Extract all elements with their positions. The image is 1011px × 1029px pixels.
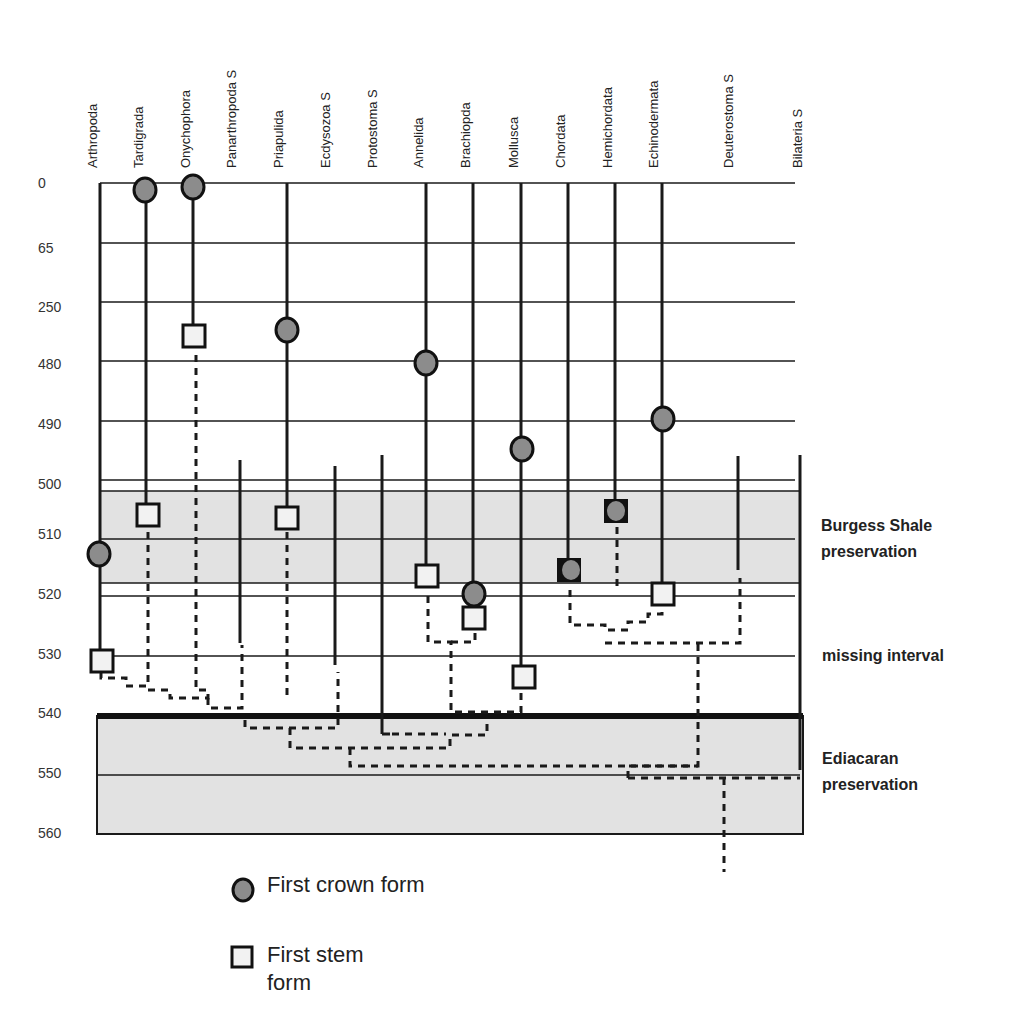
legend-crown-icon xyxy=(233,879,253,901)
ediacaran-label-2: preservation xyxy=(822,776,918,793)
stem-square-echinodermata[interactable] xyxy=(652,583,674,605)
crown-circle-echinodermata[interactable] xyxy=(652,407,674,431)
phylogeny-diagram: Arthropoda Tardigrada Onychophora Panart… xyxy=(0,0,1011,1029)
tick-label: 250 xyxy=(38,299,62,315)
legend: First crown form First stem form xyxy=(232,872,425,995)
crown-circle-mollusca[interactable] xyxy=(511,437,533,461)
taxon-label: Hemichordata xyxy=(600,86,615,168)
crown-circle-annelida[interactable] xyxy=(415,351,437,375)
tick-label: 65 xyxy=(38,240,54,256)
crown-circle-arthropoda[interactable] xyxy=(88,542,110,566)
tick-label: 500 xyxy=(38,476,62,492)
crown-circle-chordata[interactable] xyxy=(562,560,580,580)
legend-stem-label-2: form xyxy=(267,970,311,995)
stem-square-onychophora[interactable] xyxy=(183,325,205,347)
taxon-label: Chordata xyxy=(553,114,568,168)
burgess-shale-band xyxy=(100,491,800,583)
crown-circle-hemichordata[interactable] xyxy=(607,501,625,521)
taxon-label: Annelida xyxy=(411,117,426,168)
taxon-label: Echinodermata xyxy=(646,80,661,168)
taxon-label: Tardigrada xyxy=(131,106,146,168)
crown-circle-brachiopda[interactable] xyxy=(463,582,485,606)
tick-label: 0 xyxy=(38,175,46,191)
taxon-label: Protostoma S xyxy=(365,89,380,168)
taxon-label: Mollusca xyxy=(506,116,521,168)
missing-interval-label: missing interval xyxy=(822,647,944,664)
crown-circle-onychophora[interactable] xyxy=(182,175,204,199)
taxon-label: Arthropoda xyxy=(85,103,100,168)
stem-square-brachiopda[interactable] xyxy=(463,607,485,629)
crown-circle-tardigrada[interactable] xyxy=(134,178,156,202)
burgess-shale-label: Burgess Shale xyxy=(821,517,932,534)
band-annotations: Burgess Shale preservation missing inter… xyxy=(821,517,944,793)
tick-label: 560 xyxy=(38,825,62,841)
tick-label: 510 xyxy=(38,526,62,542)
stem-square-arthropoda[interactable] xyxy=(91,650,113,672)
crown-circle-priapulida[interactable] xyxy=(276,318,298,342)
time-gridlines xyxy=(97,183,800,775)
taxon-labels: Arthropoda Tardigrada Onychophora Panart… xyxy=(85,69,805,168)
ediacaran-label: Ediacaran xyxy=(822,750,898,767)
tick-label: 520 xyxy=(38,586,62,602)
taxon-label: Bilateria S xyxy=(790,108,805,168)
burgess-shale-label-2: preservation xyxy=(821,543,917,560)
legend-crown-label: First crown form xyxy=(267,872,425,897)
taxon-label: Deuterostoma S xyxy=(721,74,736,168)
legend-stem-label: First stem xyxy=(267,942,364,967)
taxon-label: Ecdysozoa S xyxy=(318,92,333,168)
tick-label: 480 xyxy=(38,356,62,372)
tick-label: 490 xyxy=(38,416,62,432)
stem-square-annelida[interactable] xyxy=(416,565,438,587)
stem-square-mollusca[interactable] xyxy=(513,666,535,688)
tick-label: 530 xyxy=(38,646,62,662)
legend-stem-icon xyxy=(232,947,252,967)
taxon-label: Onychophora xyxy=(178,89,193,168)
taxon-label: Panarthropoda S xyxy=(224,69,239,168)
taxon-label: Priapulida xyxy=(271,109,286,168)
tick-label: 550 xyxy=(38,765,62,781)
time-axis: 0 65 250 480 490 500 510 520 530 540 550… xyxy=(38,175,62,841)
stem-square-tardigrada[interactable] xyxy=(137,504,159,526)
tick-label: 540 xyxy=(38,705,62,721)
stem-square-priapulida[interactable] xyxy=(276,507,298,529)
taxon-label: Brachiopda xyxy=(458,101,473,168)
